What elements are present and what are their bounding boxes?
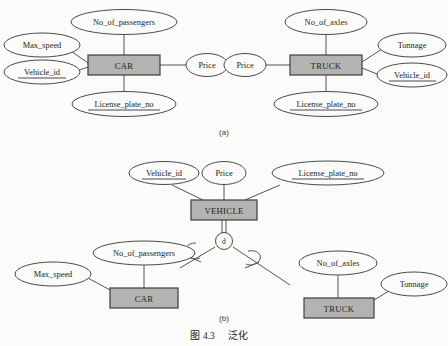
attr-vehicle-id-label: Vehicle_id: [24, 68, 61, 77]
line-vehicle-to-disjoint: [222, 220, 226, 234]
attr-tonnage-label: Tonnage: [398, 41, 427, 50]
panel-b-vehicle-connectors: [172, 185, 280, 200]
panel-a-attr-vehicle-id-truck[interactable]: Vehicle_id: [377, 63, 447, 87]
line-truck-tonnage: [362, 49, 382, 62]
panel-b-disjoint-circle[interactable]: d: [216, 233, 233, 250]
panel-a-attr-tonnage[interactable]: Tonnage: [378, 33, 446, 57]
disjoint-circle-label: d: [222, 237, 226, 246]
panel-a-attr-vehicle-id[interactable]: Vehicle_id: [4, 60, 80, 84]
panel-b: VEHICLE d Vehicle_id Price License_plate…: [15, 161, 447, 323]
panel-b-label: (b): [219, 314, 229, 323]
attr-license-plate-no-label: License_plate_no: [94, 100, 153, 109]
line-vehicle-license-plate-no: [245, 185, 280, 200]
attr-price-label: Price: [215, 169, 232, 178]
attr-no-of-axles-label: No_of_axles: [305, 18, 348, 27]
panel-b-attr-license-plate-no[interactable]: License_plate_no: [272, 161, 384, 185]
panel-a: CAR TRUCK No_of_passengers Max_speed Veh…: [4, 10, 447, 137]
subset-symbol-truck: [245, 251, 260, 268]
panel-a-attr-price-truck[interactable]: Price: [224, 54, 266, 77]
attr-no-of-axles-label: No_of_axles: [317, 259, 360, 268]
caption-number: 4.3: [203, 331, 215, 341]
attr-no-of-passengers-label: No_of_passengers: [93, 18, 155, 27]
panel-b-attr-tonnage[interactable]: Tonnage: [381, 272, 447, 296]
panel-b-vehicle-entity[interactable]: VEHICLE: [191, 200, 257, 220]
panel-a-attr-license-plate-no-truck[interactable]: License_plate_no: [274, 92, 378, 117]
caption-label: 图: [190, 330, 200, 341]
er-diagram-canvas: CAR TRUCK No_of_passengers Max_speed Veh…: [0, 0, 448, 346]
caption-title: 泛化: [228, 329, 248, 341]
panel-b-specialization-branches: [180, 247, 290, 285]
figure-caption: 图 4.3 泛化: [190, 329, 248, 341]
attr-max-speed-label: Max_speed: [23, 41, 62, 50]
panel-a-label: (a): [219, 128, 229, 137]
attr-license-plate-no-label: License_plate_no: [296, 100, 355, 109]
line-vehicle-vehicle-id: [172, 185, 203, 200]
panel-a-attr-max-speed[interactable]: Max_speed: [4, 33, 80, 57]
panel-a-truck-entity[interactable]: TRUCK: [290, 55, 362, 75]
attr-max-speed-label: Max_speed: [34, 270, 73, 279]
er-diagram-figure: CAR TRUCK No_of_passengers Max_speed Veh…: [0, 0, 448, 346]
panel-b-car-entity[interactable]: CAR: [110, 288, 178, 308]
attr-price-label: Price: [198, 61, 215, 70]
panel-a-attr-price-car[interactable]: Price: [186, 54, 228, 77]
attr-price-label: Price: [236, 61, 253, 70]
vehicle-entity-label: VEHICLE: [204, 206, 243, 216]
attr-no-of-passengers-label: No_of_passengers: [113, 249, 175, 258]
attr-vehicle-id-label: Vehicle_id: [394, 71, 431, 80]
panel-b-attr-price[interactable]: Price: [202, 162, 246, 185]
panel-b-attr-no-of-passengers[interactable]: No_of_passengers: [93, 241, 195, 265]
panel-b-attr-vehicle-id[interactable]: Vehicle_id: [129, 162, 199, 185]
panel-b-truck-entity[interactable]: TRUCK: [304, 298, 374, 318]
panel-b-attr-max-speed[interactable]: Max_speed: [15, 262, 91, 286]
panel-a-attr-no-of-passengers[interactable]: No_of_passengers: [71, 10, 177, 35]
attr-license-plate-no-label: License_plate_no: [298, 169, 357, 178]
panel-a-attr-license-plate-no-car[interactable]: License_plate_no: [72, 92, 176, 117]
truck-entity-label: TRUCK: [311, 61, 342, 71]
panel-a-car-entity[interactable]: CAR: [88, 55, 160, 75]
panel-b-attr-no-of-axles[interactable]: No_of_axles: [299, 251, 377, 275]
car-entity-label: CAR: [135, 294, 154, 304]
attr-tonnage-label: Tonnage: [400, 280, 429, 289]
car-entity-label: CAR: [115, 61, 134, 71]
line-car-max-speed: [88, 278, 110, 290]
panel-a-attr-no-of-axles[interactable]: No_of_axles: [285, 10, 367, 35]
attr-vehicle-id-label: Vehicle_id: [146, 169, 183, 178]
truck-entity-label: TRUCK: [324, 304, 355, 314]
line-disjoint-to-truck: [233, 247, 290, 285]
